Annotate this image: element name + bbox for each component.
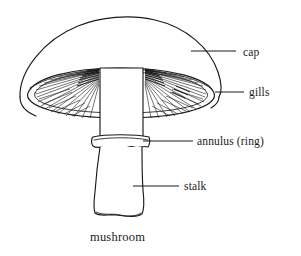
stalk-upper [100, 68, 143, 139]
label-stalk: stalk [184, 180, 207, 192]
label-cap: cap [243, 46, 260, 59]
stalk-lower-body [94, 147, 144, 216]
stalk-lower [94, 147, 144, 216]
label-annulus: annulus (ring) [197, 135, 264, 148]
stalk-upper-body [100, 68, 143, 139]
figure-caption: mushroom [90, 230, 145, 244]
mushroom-figure: cap gills annulus (ring) stalk mushroom [0, 0, 301, 256]
label-gills: gills [249, 86, 270, 99]
mushroom-diagram: cap gills annulus (ring) stalk mushroom [0, 0, 301, 256]
